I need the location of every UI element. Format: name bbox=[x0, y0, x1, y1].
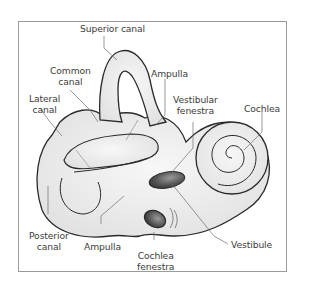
label-lateral-canal-line2: canal bbox=[29, 104, 60, 115]
label-ampulla-top: Ampulla bbox=[151, 68, 188, 79]
label-vestibular-fenestra-line1: Vestibular bbox=[173, 94, 218, 105]
label-lateral-canal-line1: Lateral bbox=[29, 93, 60, 104]
label-posterior-canal-line1: Posterior bbox=[29, 230, 69, 241]
label-common-canal-line1: Common bbox=[50, 65, 91, 76]
label-vestibular-fenestra: Vestibular fenestra bbox=[173, 94, 218, 116]
label-common-canal: Common canal bbox=[50, 65, 91, 87]
label-lateral-canal: Lateral canal bbox=[29, 93, 60, 115]
label-superior-canal: Superior canal bbox=[80, 23, 145, 34]
label-ampulla-bottom: Ampulla bbox=[84, 241, 121, 252]
label-posterior-canal-line2: canal bbox=[29, 241, 69, 252]
label-cochlea: Cochlea bbox=[244, 103, 280, 114]
label-cochlea-fenestra-line1: Cochlea bbox=[137, 250, 174, 261]
cochlea-spiral bbox=[196, 122, 268, 194]
label-cochlea-fenestra: Cochlea fenestra bbox=[137, 250, 174, 272]
label-cochlea-fenestra-line2: fenestra bbox=[137, 261, 174, 272]
label-vestibular-fenestra-line2: fenestra bbox=[173, 105, 218, 116]
label-posterior-canal: Posterior canal bbox=[29, 230, 69, 252]
label-vestibule: Vestibule bbox=[231, 239, 272, 250]
label-common-canal-line2: canal bbox=[50, 76, 91, 87]
